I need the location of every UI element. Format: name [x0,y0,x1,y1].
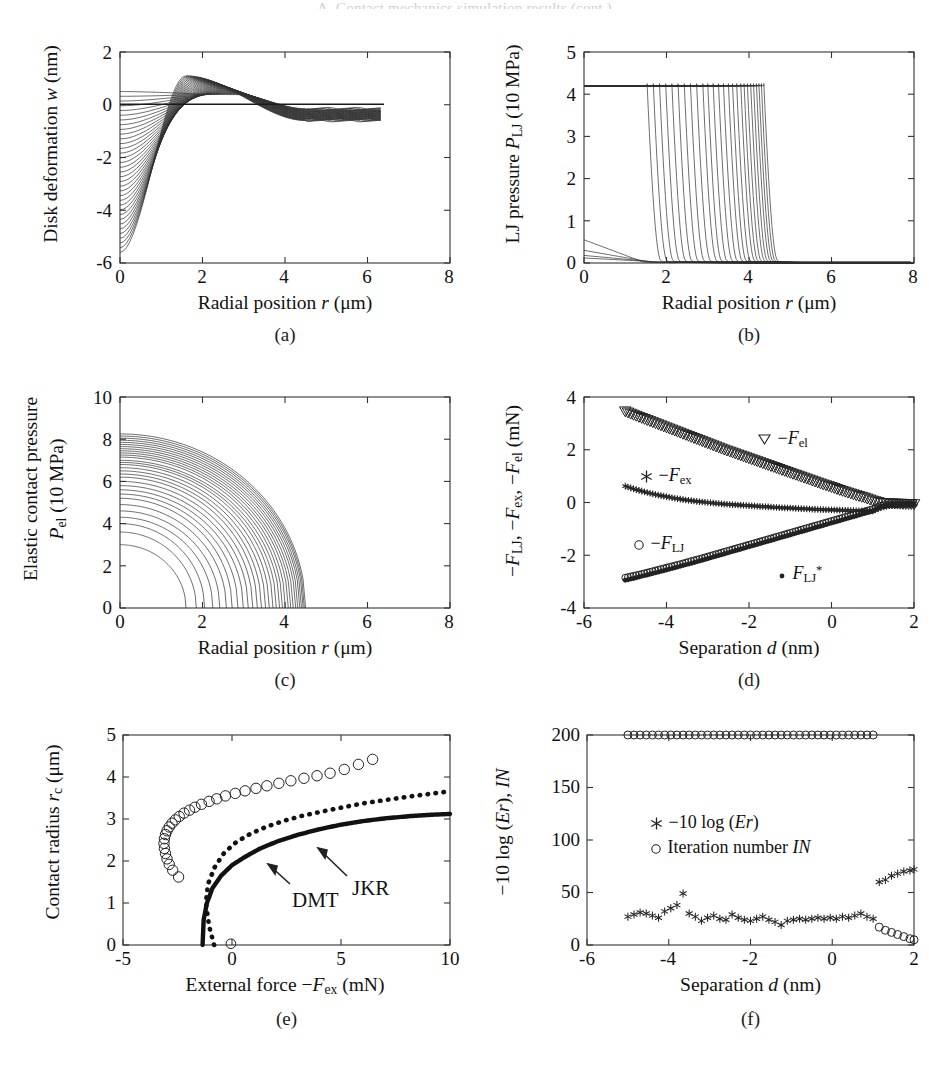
panel-b-xlabel: Radial position r (μm) [584,292,914,314]
panel-a-plot [0,26,465,371]
panel-d-label-Fel: −Fel [757,428,808,451]
panel-c-xtick-0: 0 [104,611,136,633]
panel-a: 2 0 -2 -4 -6 0 2 4 6 8 Disk deformation … [0,26,465,371]
panel-d-label-Fex: −Fex [639,465,692,488]
panel-b-xtick-3: 6 [815,266,847,288]
panel-d-label-FLJstar-text: FLJ* [793,563,823,583]
panel-f-xtick-4: 2 [894,948,929,970]
panel-f-xtick-2: -2 [730,948,770,970]
panel-b-caption: (b) [584,324,914,346]
panel-e-ylabel: Contact radius rc (μm) [42,712,66,952]
circle-open-icon [632,537,646,551]
circle-open-icon [649,841,663,855]
panel-a-ytick-0: 2 [72,42,112,64]
panel-d-xtick-0: -6 [564,611,604,633]
panel-f-legend-er: −10 log (Er) [649,812,759,833]
panel-e-ytick-1: 4 [76,766,116,788]
panel-e-xtick-0: -5 [103,948,143,970]
panel-d-ytick-1: 2 [536,439,576,461]
panel-d-ytick-0: 4 [536,387,576,409]
panel-e-xlabel: External force −Fex (mN) [110,974,460,998]
panel-f-xtick-1: -4 [648,948,688,970]
asterisk-icon [649,816,664,831]
top-cut-text: A. Contact mechanics simulation results … [0,0,929,9]
panel-c-xtick-4: 8 [433,611,465,633]
panel-c-xtick-3: 6 [351,611,383,633]
panel-d-xtick-2: -2 [729,611,769,633]
panel-b-plot [464,26,929,371]
dot-filled-icon [776,567,788,581]
panel-d-ytick-2: 0 [536,492,576,514]
panel-a-xtick-2: 4 [268,266,300,288]
panel-d: 4 2 0 -2 -4 -6 -4 -2 0 2 −FLJ, −Fex, −Fe… [464,371,929,716]
panel-f-ytick-2: 100 [512,829,580,851]
panel-d-caption: (d) [584,669,914,691]
panel-d-label-FLJ: −FLJ [632,533,684,556]
panel-c-xlabel: Radial position r (μm) [120,637,450,659]
panel-b-xtick-4: 8 [897,266,929,288]
panel-b-ytick-2: 3 [536,126,576,148]
panel-e-ytick-2: 3 [76,808,116,830]
panel-f: 200 150 100 50 0 -6 -4 -2 0 2 −10 log (E… [464,716,929,1089]
panel-a-xtick-1: 2 [186,266,218,288]
panel-d-xtick-4: 2 [894,611,929,633]
panel-d-ytick-3: -2 [530,545,576,567]
panel-d-xtick-1: -4 [646,611,686,633]
panel-a-xlabel: Radial position r (μm) [120,292,450,314]
panel-e-ytick-0: 5 [76,724,116,746]
panel-f-legend-in-text: Iteration number IN [668,837,811,857]
panel-d-xlabel: Separation d (nm) [584,637,914,659]
panel-c-caption: (c) [120,669,450,691]
panel-a-xtick-0: 0 [104,266,136,288]
panel-a-ytick-3: -4 [66,200,112,222]
panel-d-ylabel: −FLJ, −Fex, −Fel (mN) [502,361,526,621]
panel-d-label-FLJstar: FLJ* [776,563,822,586]
panel-e-xtick-1: 0 [212,948,252,970]
panel-e-ytick-3: 2 [76,850,116,872]
panel-d-plot [464,371,929,716]
panel-c-xtick-2: 4 [268,611,300,633]
panel-a-ylabel: Disk deformation w (nm) [40,19,62,269]
jkr-label: JKR [352,876,389,901]
panel-b-ytick-4: 1 [536,211,576,233]
asterisk-icon [639,469,654,484]
panel-e: 5 4 3 2 1 0 -5 0 5 10 Contact radius rc … [0,716,465,1089]
panel-f-xtick-0: -6 [567,948,607,970]
panel-e-caption: (e) [123,1008,450,1030]
panel-e-xtick-2: 5 [321,948,361,970]
panel-a-ytick-2: -2 [66,147,112,169]
panel-f-xlabel: Separation d (nm) [587,974,914,996]
panel-d-label-Fex-text: −Fex [659,465,692,485]
dmt-label: DMT [292,888,339,913]
panel-d-xtick-3: 0 [812,611,852,633]
figure-root: A. Contact mechanics simulation results … [0,0,929,1089]
panel-c-xtick-1: 2 [186,611,218,633]
triangle-down-open-icon [757,432,773,446]
panel-f-ytick-1: 150 [512,776,580,798]
panel-a-xtick-3: 6 [351,266,383,288]
panel-f-ylabel: −10 log (Er), IN [492,712,514,952]
panel-f-ytick-0: 200 [512,724,580,746]
panel-f-ytick-3: 50 [512,881,580,903]
panel-b-ytick-0: 5 [536,42,576,64]
panel-c-ylabel-line2: Pel (10 MPa) [46,364,70,614]
panel-b-xtick-1: 2 [650,266,682,288]
panel-c: 10 8 6 4 2 0 0 2 4 6 8 Elastic contact p… [0,371,465,716]
panel-a-caption: (a) [120,324,450,346]
panel-f-legend-in: Iteration number IN [649,837,810,858]
panel-f-caption: (f) [587,1008,914,1030]
panel-b-xtick-0: 0 [568,266,600,288]
panel-a-ytick-1: 0 [72,94,112,116]
panel-b-ytick-3: 2 [536,168,576,190]
panel-b-ylabel: LJ pressure PLJ (10 MPa) [502,19,526,269]
panel-b: 5 4 3 2 1 0 0 2 4 6 8 LJ pressure PLJ (1… [464,26,929,371]
panel-b-xtick-2: 4 [732,266,764,288]
panel-d-label-FLJ-text: −FLJ [651,533,685,553]
panel-a-xtick-4: 8 [433,266,465,288]
panel-e-ytick-4: 1 [76,892,116,914]
panel-b-ytick-1: 4 [536,84,576,106]
panel-d-label-Fel-text: −Fel [778,428,808,448]
panel-f-legend-er-text: −10 log (Er) [669,812,759,832]
panel-f-xtick-3: 0 [812,948,852,970]
panel-e-plot [0,716,465,1089]
